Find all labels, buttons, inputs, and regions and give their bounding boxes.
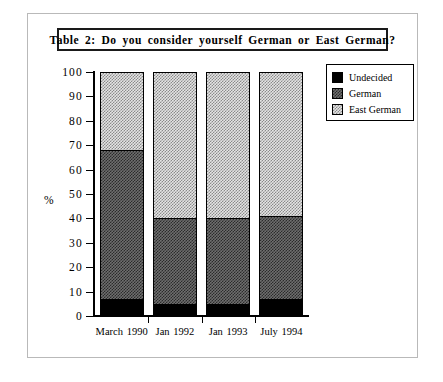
stacked-bar xyxy=(259,72,303,316)
bar-segment-german xyxy=(259,216,303,299)
y-axis-tick xyxy=(86,243,93,244)
y-axis-tick-label: 50 xyxy=(69,188,83,200)
y-axis-tick-label: 40 xyxy=(69,212,83,224)
y-axis-tick xyxy=(86,267,93,268)
y-axis-tick xyxy=(86,96,93,97)
bar-segment-east-german xyxy=(206,72,250,218)
y-axis-tick xyxy=(86,121,93,122)
x-axis-tick-label: July 1994 xyxy=(260,326,302,337)
x-axis-tick-label: March 1990 xyxy=(96,326,148,337)
light-checker-swatch xyxy=(332,104,343,115)
stacked-bar xyxy=(100,72,144,316)
x-axis-tick xyxy=(255,317,256,323)
legend-item-label: Undecided xyxy=(349,72,392,83)
legend-item: East German xyxy=(332,101,409,117)
bar-segment-east-german xyxy=(259,72,303,216)
solid-black-swatch xyxy=(332,72,343,83)
legend-item: Undecided xyxy=(332,69,409,85)
y-axis-tick xyxy=(86,194,93,195)
figure-container: Table 2: Do you consider yourself German… xyxy=(0,0,443,382)
y-axis-tick xyxy=(86,170,93,171)
legend-item: German xyxy=(332,85,409,101)
y-axis-tick-label: 90 xyxy=(69,90,83,102)
y-axis-tick-label: 70 xyxy=(69,139,83,151)
page-title: Table 2: Do you consider yourself German… xyxy=(50,34,396,46)
dark-checker-swatch xyxy=(332,88,343,99)
bar-segment-german xyxy=(153,218,197,303)
chart-title-box: Table 2: Do you consider yourself German… xyxy=(57,28,388,51)
y-axis-tick-label: 30 xyxy=(69,237,83,249)
stacked-bar xyxy=(206,72,250,316)
x-axis-tick-label: Jan 1992 xyxy=(156,326,195,337)
y-axis-tick-label: 60 xyxy=(69,164,83,176)
chart-legend: UndecidedGermanEast German xyxy=(326,64,414,121)
y-axis-tick-label: 20 xyxy=(69,261,83,273)
bar-segment-undecided xyxy=(100,299,144,316)
plot-area xyxy=(95,72,308,316)
legend-item-label: East German xyxy=(349,104,401,115)
y-axis-tick xyxy=(86,72,93,73)
bar-segment-east-german xyxy=(100,72,144,150)
stacked-bar xyxy=(153,72,197,316)
y-axis-tick xyxy=(86,145,93,146)
y-axis-tick xyxy=(86,218,93,219)
legend-item-label: German xyxy=(349,88,381,99)
bar-segment-undecided xyxy=(206,304,250,316)
y-axis-tick-label: 10 xyxy=(69,286,83,298)
y-axis-tick-label: 100 xyxy=(62,66,83,78)
y-axis-title: % xyxy=(44,194,54,206)
x-axis-tick-label: Jan 1993 xyxy=(209,326,248,337)
y-axis-tick xyxy=(86,292,93,293)
y-axis-tick-label: 0 xyxy=(76,310,83,322)
bar-segment-german xyxy=(100,150,144,299)
bar-segment-east-german xyxy=(153,72,197,218)
x-axis-tick xyxy=(148,317,149,323)
x-axis-tick xyxy=(202,317,203,323)
y-axis-tick xyxy=(86,316,93,317)
bar-segment-undecided xyxy=(259,299,303,316)
y-axis-tick-label: 80 xyxy=(69,115,83,127)
bar-segment-german xyxy=(206,218,250,303)
bar-segment-undecided xyxy=(153,304,197,316)
